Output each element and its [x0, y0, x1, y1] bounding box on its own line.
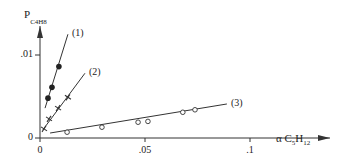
- data-point-open-circle: [193, 107, 198, 112]
- data-point-open-circle: [136, 120, 141, 125]
- y-tick-label: 0: [0, 131, 33, 142]
- series-label: (3): [231, 97, 243, 108]
- data-point-open-circle: [65, 130, 70, 135]
- axes: [35, 26, 330, 142]
- data-point-open-circle: [100, 125, 105, 130]
- y-axis-arrow-icon: [37, 26, 43, 38]
- data-point-filled-circle: [56, 64, 62, 70]
- x-tick-label: .05: [137, 144, 153, 155]
- data-point-cross: [42, 126, 46, 132]
- data-point-open-circle: [146, 119, 151, 124]
- y-axis-label: PC4H8: [24, 8, 47, 23]
- series-label: (2): [89, 66, 101, 77]
- series-label: (1): [72, 27, 84, 38]
- x-tick-label: 0: [32, 144, 48, 155]
- data-point-filled-circle: [45, 95, 51, 101]
- data-point-filled-circle: [49, 85, 55, 91]
- x-tick-label: .1: [242, 144, 258, 155]
- data-point-open-circle: [181, 110, 186, 115]
- x-axis-label: α C5H12: [276, 132, 310, 147]
- series-layer: [41, 34, 227, 134]
- y-tick-label: .01: [0, 48, 33, 59]
- x-axis-arrow-icon: [318, 135, 330, 141]
- fit-line: [50, 104, 227, 133]
- fit-line: [43, 73, 85, 129]
